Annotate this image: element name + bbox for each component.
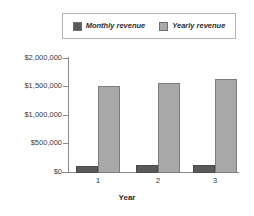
- y-tick-label-0: $0: [54, 168, 62, 176]
- y-tick-label-1000000: $1,000,000: [24, 111, 62, 119]
- y-tick-label-2000000: $2,000,000: [24, 54, 62, 62]
- bar-monthly-year-2: [136, 165, 158, 173]
- x-axis-title: Year: [0, 194, 254, 202]
- x-tick-label-1: 1: [88, 177, 108, 185]
- bar-monthly-year-3: [193, 165, 215, 173]
- plot-area: $2,000,000 $1,500,000 $1,000,000 $500,00…: [0, 0, 254, 216]
- bar-monthly-year-1: [76, 166, 98, 173]
- bar-chart-figure: Monthly revenue Yearly revenue $2,000,00…: [0, 0, 254, 216]
- y-tick-label-500000: $500,000: [31, 139, 62, 147]
- y-tick-mark-2000000: [63, 58, 69, 59]
- bar-yearly-year-3: [215, 79, 237, 173]
- y-tick-label-1500000: $1,500,000: [24, 82, 62, 90]
- y-tick-mark-1500000: [63, 86, 69, 87]
- x-tick-label-3: 3: [205, 177, 225, 185]
- bar-yearly-year-1: [98, 86, 120, 173]
- y-tick-mark-500000: [63, 143, 69, 144]
- x-tick-label-2: 2: [148, 177, 168, 185]
- bar-yearly-year-2: [158, 83, 180, 173]
- y-tick-mark-0: [63, 172, 69, 173]
- y-tick-mark-1000000: [63, 115, 69, 116]
